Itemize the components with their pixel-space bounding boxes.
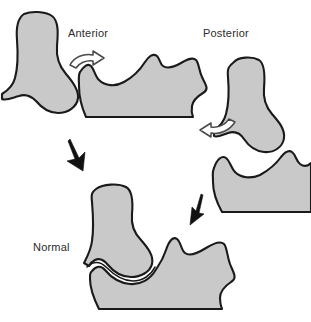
humerus-distal-anterior bbox=[2, 12, 78, 113]
solid-arrow-down-left bbox=[67, 139, 85, 171]
label-posterior: Posterior bbox=[203, 27, 249, 39]
solid-arrow-down-right bbox=[190, 194, 204, 225]
elbow-dislocation-figure: Anterior Posterior Normal bbox=[0, 0, 311, 322]
normal-panel bbox=[84, 185, 235, 309]
ulna-proximal-anterior bbox=[79, 55, 207, 117]
ulna-proximal-posterior bbox=[213, 151, 311, 212]
figure-canvas bbox=[0, 0, 311, 322]
label-normal: Normal bbox=[33, 241, 70, 253]
posterior-panel bbox=[200, 58, 311, 212]
humerus-distal-posterior bbox=[214, 58, 284, 153]
label-anterior: Anterior bbox=[68, 27, 108, 39]
